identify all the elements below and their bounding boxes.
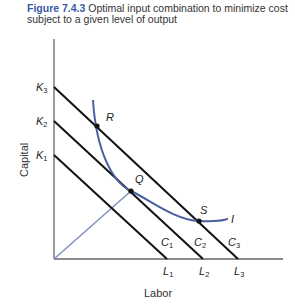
label-c1: C1 (161, 236, 173, 250)
expansion-path (54, 191, 131, 259)
isocost-line-c3 (54, 87, 238, 259)
label-isoquant-i: I (231, 213, 234, 225)
label-r: R (106, 111, 114, 123)
label-c2: C2 (194, 236, 206, 250)
point-q (128, 188, 133, 193)
point-r (94, 123, 99, 128)
label-k2: K2 (36, 115, 48, 129)
y-axis-title: Capital (18, 143, 30, 177)
label-l1: L1 (163, 265, 173, 279)
label-k1: K1 (36, 149, 48, 163)
point-s (196, 218, 201, 223)
x-axis-title: Labor (144, 287, 172, 299)
label-k3: K3 (36, 81, 48, 95)
label-c3: C3 (228, 236, 240, 250)
label-l3: L3 (234, 265, 244, 279)
label-l2: L2 (199, 265, 209, 279)
label-s: S (200, 204, 208, 216)
chart: R Q S I K3 K2 K1 C1 C2 C3 L1 L2 L3 Labor… (0, 0, 295, 308)
label-q: Q (135, 173, 144, 185)
